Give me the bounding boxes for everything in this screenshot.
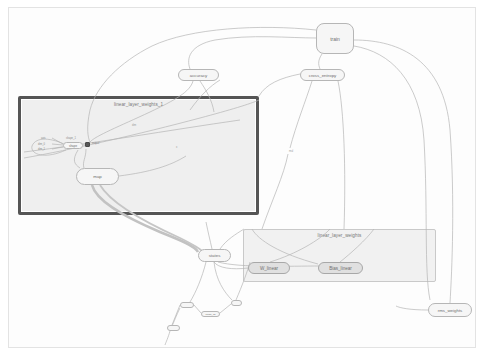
node-rank[interactable] (180, 302, 194, 308)
node-range[interactable]: range_as (201, 311, 220, 317)
constant-chip-label: output (92, 142, 99, 145)
graph-canvas[interactable]: linear_layer_weights_1 linear_layer_weig… (0, 0, 486, 358)
node-concat[interactable] (231, 300, 242, 306)
port-label-dim-0: dim_0 (38, 143, 45, 146)
node-label: Bias_linear (329, 266, 352, 271)
node-rms-weights[interactable]: rms_weights (428, 303, 472, 317)
node-w-linear[interactable]: W_linear (248, 262, 290, 274)
edge-label-x: x (176, 146, 177, 149)
group-label: linear_layer_weights (244, 233, 435, 238)
node-map[interactable]: map (76, 168, 119, 185)
node-label: shape (69, 144, 77, 148)
node-shape[interactable]: shape (63, 142, 83, 149)
port-label-shape: shape_1 (66, 137, 76, 140)
group-linear-layer-weights[interactable]: linear_layer_weights (243, 229, 436, 282)
node-accuracy[interactable]: accuracy (178, 69, 219, 81)
node-label: states (209, 253, 221, 258)
node-label: map (93, 174, 102, 179)
node-bias-linear[interactable]: Bias_linear (318, 262, 363, 274)
node-cross-entropy[interactable]: cross_entropy (300, 69, 345, 81)
node-label: range_as (206, 313, 216, 316)
edge-label-mul: mul (289, 150, 293, 153)
group-linear-layer-weights-1[interactable]: linear_layer_weights_1 (18, 96, 259, 215)
group-label: linear_layer_weights_1 (21, 102, 256, 107)
node-label: W_linear (260, 266, 278, 271)
constant-chip-icon[interactable] (85, 142, 90, 147)
node-sub[interactable] (167, 325, 180, 331)
node-label: accuracy (190, 73, 208, 78)
node-label: rms_weights (438, 308, 463, 313)
edge-label-dim: dim (132, 124, 136, 127)
node-label: train (330, 36, 340, 42)
node-label: cross_entropy (309, 73, 337, 78)
port-label-dim-1: dim_1 (38, 148, 45, 151)
port-label-axis: axis (41, 137, 46, 140)
node-train[interactable]: train (316, 23, 354, 54)
node-states[interactable]: states (198, 249, 231, 262)
